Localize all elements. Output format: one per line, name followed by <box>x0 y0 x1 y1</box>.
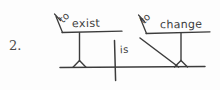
subject-phrase-line <box>62 31 122 32</box>
subject-predicate-divider <box>115 41 116 81</box>
baseline <box>60 67 205 68</box>
sentence-diagram-screenshot: 2. to exist is to change <box>0 0 220 90</box>
diagram-canvas <box>0 0 220 90</box>
predicate-complement-diagonal <box>140 38 179 67</box>
complement-phrase-line <box>146 32 210 34</box>
label-change: change <box>160 18 203 32</box>
label-is: is <box>120 44 129 55</box>
label-exist: exist <box>72 17 101 31</box>
